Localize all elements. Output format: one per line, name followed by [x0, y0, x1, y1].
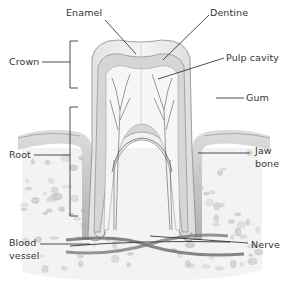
bone-spot: [69, 213, 74, 216]
bone-spot: [25, 187, 32, 190]
bone-spot: [256, 227, 260, 233]
crown-bracket: [70, 41, 78, 88]
bone-spot: [127, 253, 133, 256]
bone-spot: [231, 260, 237, 268]
bone-spot: [209, 190, 215, 194]
label-crown: Crown: [9, 56, 39, 67]
bone-spot: [229, 220, 235, 224]
bone-spot: [51, 187, 58, 194]
label-nerve: Nerve: [251, 239, 280, 250]
bone-spot: [206, 199, 214, 206]
bone-spot: [201, 264, 210, 268]
bone-spot: [40, 255, 44, 258]
label-blood-vessel-line2: vessel: [9, 250, 39, 261]
label-jaw-bone-line2: bone: [255, 158, 279, 169]
label-blood-vessel-line1: Blood: [9, 237, 36, 248]
bone-spot: [21, 208, 27, 210]
bone-spot: [237, 222, 246, 228]
bone-spot: [61, 266, 67, 270]
bone-spot: [70, 165, 78, 171]
bone-spot: [62, 186, 72, 188]
bone-spot: [220, 168, 226, 171]
bone-spot: [214, 215, 219, 222]
jaw-bone: [20, 148, 263, 280]
bone-spot: [185, 242, 194, 247]
label-dentine: Dentine: [210, 7, 248, 18]
bone-spot: [111, 255, 119, 262]
bone-spot: [249, 254, 253, 256]
bone-spot: [231, 235, 234, 239]
bone-spot: [240, 262, 243, 266]
bone-spot: [248, 258, 257, 265]
label-enamel: Enamel: [66, 7, 102, 18]
bone-spot: [215, 266, 223, 270]
label-root: Root: [9, 149, 31, 160]
bone-spot: [185, 260, 190, 267]
bone-spot: [25, 179, 29, 183]
bone-spot: [71, 195, 79, 202]
label-jaw-bone-line1: Jaw: [255, 145, 272, 156]
bone-spot: [127, 262, 131, 267]
tooth-diagram: Enamel Dentine Crown Pulp cavity Gum Roo…: [0, 0, 288, 288]
bone-spot: [74, 217, 81, 220]
bone-spot: [209, 257, 214, 260]
bone-spot: [213, 223, 220, 226]
tooth-illustration: [0, 0, 288, 288]
bone-spot: [31, 159, 34, 164]
bone-spot: [58, 207, 63, 211]
bone-spot: [235, 228, 241, 236]
label-pulp-cavity: Pulp cavity: [226, 52, 279, 63]
bone-spot: [31, 198, 39, 204]
bone-spot: [48, 178, 54, 183]
label-gum: Gum: [246, 92, 269, 103]
bone-spot: [240, 235, 247, 239]
bone-spot: [217, 171, 222, 176]
bone-spot: [77, 254, 83, 258]
bone-spot: [53, 193, 62, 200]
bone-spot: [42, 265, 48, 272]
bone-spot: [214, 203, 221, 210]
bone-spot: [235, 213, 241, 216]
bone-spot: [46, 209, 52, 213]
bone-spot: [43, 212, 48, 214]
bone-spot: [45, 160, 50, 165]
bone-spot: [204, 192, 209, 195]
bone-spot: [43, 192, 47, 195]
bone-spot: [255, 249, 263, 255]
bone-spot: [50, 237, 59, 240]
bone-spot: [79, 261, 84, 267]
bone-spot: [246, 219, 250, 225]
bone-spot: [20, 203, 28, 207]
